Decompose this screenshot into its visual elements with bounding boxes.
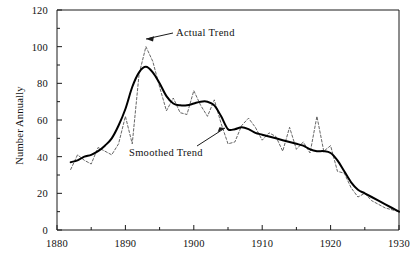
x-tick-label: 1910 (251, 238, 273, 249)
annotation-smoothed-trend: Smoothed Trend (129, 147, 203, 158)
chart-plot-svg (0, 0, 420, 265)
data-series-layer (71, 47, 399, 212)
y-tick-label: 0 (0, 225, 48, 236)
axis-ticks (57, 10, 399, 230)
y-tick-label: 20 (0, 188, 48, 199)
x-tick-label: 1890 (114, 238, 136, 249)
y-tick-label: 120 (0, 5, 48, 16)
plot-frame (57, 10, 399, 230)
annotation-arrows (146, 33, 225, 146)
x-tick-label: 1920 (320, 238, 342, 249)
x-tick-label: 1930 (388, 238, 410, 249)
chart-container: 120100806040200 188018901900191019201930… (0, 0, 420, 265)
x-tick-label: 1900 (183, 238, 205, 249)
y-axis-title: Number Annually (14, 71, 25, 181)
annotation-actual-trend: Actual Trend (176, 27, 235, 38)
y-tick-label: 100 (0, 41, 48, 52)
x-tick-label: 1880 (46, 238, 68, 249)
